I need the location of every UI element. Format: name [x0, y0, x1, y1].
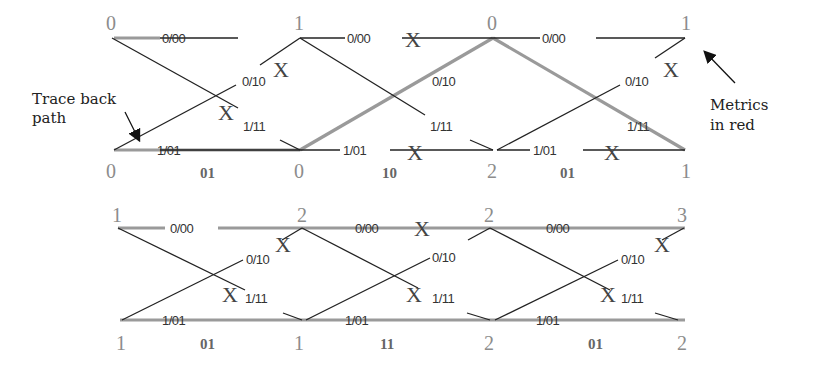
discard-marker: X [405, 27, 421, 52]
metric-t3-s0: 3 [677, 204, 687, 226]
branch-label: 0/00 [347, 31, 371, 46]
metric-t3-s1: 2 [677, 332, 687, 354]
metrics-annotation: Metrics in red [705, 52, 768, 134]
branch-label: 1/11 [245, 291, 268, 306]
metric-t2-s1: 2 [484, 332, 494, 354]
metric-t0-s1: 0 [106, 160, 116, 182]
branch-label: 0/00 [546, 221, 570, 236]
metric-t3-s0: 1 [681, 12, 691, 34]
received-symbol: 01 [200, 165, 215, 181]
trace-back-annotation: Trace back path [32, 90, 139, 140]
annotation-metrics-line2: in red [710, 116, 755, 134]
received-symbol: 01 [200, 336, 215, 352]
metric-t0-s0: 1 [112, 204, 122, 226]
discard-marker: X [604, 140, 620, 165]
branch-label: 0/10 [246, 252, 270, 267]
branch-label: 1/01 [162, 313, 186, 328]
discard-marker: X [600, 282, 616, 307]
discard-marker: X [406, 282, 422, 307]
discard-marker: X [275, 232, 291, 257]
received-symbol: 01 [560, 165, 575, 181]
branch-label: 1/11 [627, 119, 650, 134]
annotation-trace-back-line2: path [32, 109, 67, 127]
branch-label: 1/11 [430, 119, 453, 134]
metric-t0-s1: 1 [116, 332, 126, 354]
edge-s0-s1 [302, 228, 418, 288]
discard-marker: X [222, 282, 238, 307]
received-symbol: 10 [382, 165, 397, 181]
discard-marker: X [414, 216, 430, 241]
edge-s1-s0-tail [468, 228, 490, 240]
branch-label: 0/10 [242, 74, 266, 89]
branch-label: 0/10 [432, 74, 456, 89]
annotation-trace-back-line1: Trace back [32, 90, 117, 108]
discard-marker: X [407, 140, 423, 165]
branch-label: 0/00 [542, 31, 566, 46]
metric-t2-s1: 2 [487, 160, 497, 182]
trellis-diagram: 0 1 0 1 0 0 2 1 01 10 01 0/00 0/00 0/00 … [0, 0, 814, 378]
edge-s1-s0 [497, 85, 620, 150]
metric-t2-s0: 2 [484, 204, 494, 226]
annotation-metrics-line1: Metrics [710, 96, 768, 114]
branch-label: 1/11 [432, 291, 455, 306]
metric-t3-s1: 1 [681, 160, 691, 182]
arrow-icon [125, 112, 139, 140]
received-symbol: 11 [380, 336, 394, 352]
branch-label: 0/10 [432, 250, 456, 265]
metric-t1-s0: 2 [297, 204, 307, 226]
discard-marker: X [218, 100, 234, 125]
metric-t1-s1: 1 [294, 332, 304, 354]
branch-label: 1/11 [621, 291, 644, 306]
edge-s0-s1-tail [470, 140, 493, 150]
branch-label: 1/01 [533, 143, 557, 158]
branch-label: 0/00 [355, 221, 379, 236]
branch-label: 0/10 [621, 252, 645, 267]
branch-label: 0/00 [170, 221, 194, 236]
branch-label: 1/01 [343, 143, 367, 158]
branch-label: 1/01 [157, 143, 181, 158]
branch-label: 1/11 [243, 119, 266, 134]
edge-s1-s0-tail [655, 38, 685, 58]
discard-marker: X [273, 57, 289, 82]
branch-label: 1/01 [536, 313, 560, 328]
branch-label: 0/00 [162, 31, 186, 46]
branch-label: 0/10 [625, 74, 649, 89]
edge-s0-s1 [490, 228, 610, 290]
edge-s0-s1 [112, 38, 238, 108]
arrow-icon [705, 52, 735, 83]
metric-t0-s0: 0 [106, 12, 116, 34]
received-symbol: 01 [588, 336, 603, 352]
metric-t1-s0: 1 [294, 12, 304, 34]
metric-t2-s0: 0 [487, 12, 497, 34]
discard-marker: X [663, 57, 679, 82]
metric-t1-s1: 0 [294, 160, 304, 182]
bottom-trellis: 1 2 2 3 1 1 2 2 01 11 01 0/00 0/00 0/00 … [112, 204, 687, 354]
survivor-path-segment [300, 38, 493, 150]
edge-s0-s1 [118, 228, 245, 290]
survivor-path-segment [493, 38, 685, 150]
discard-marker: X [654, 232, 670, 257]
top-trellis: 0 1 0 1 0 0 2 1 01 10 01 0/00 0/00 0/00 … [106, 12, 691, 182]
branch-label: 1/01 [345, 313, 369, 328]
